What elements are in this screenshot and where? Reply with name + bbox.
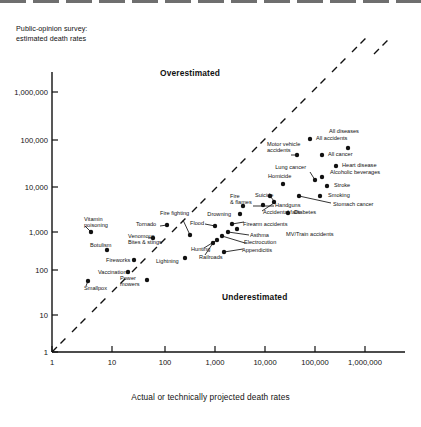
- point-label-stroke: Stroke: [334, 182, 350, 188]
- point-label-all-cancer: All cancer: [328, 151, 353, 157]
- x-tick-label-1000: 1,000: [205, 358, 224, 367]
- x-tick-label-100: 100: [159, 358, 172, 367]
- point-label-heart-disease: Heart disease: [342, 162, 377, 168]
- point-label-all-accidents: All accidents: [316, 135, 347, 141]
- leader-electro: [222, 236, 245, 243]
- leader-lines: [85, 155, 331, 286]
- point-label-railroads: Railroads: [199, 254, 223, 260]
- dash-13: [292, 98, 306, 112]
- dash-15: [332, 58, 346, 72]
- point-label-electrocution: Electrocution: [244, 239, 276, 245]
- point-label-stomach-cancer: Stomach cancer: [333, 201, 373, 207]
- point-label-firearm-accidents: Firearm accidents: [243, 221, 287, 227]
- point-all-diseases: [346, 146, 350, 150]
- leader-appendicitis: [224, 249, 243, 252]
- dash-11: [252, 138, 266, 152]
- point-vitamin-poisoning: [89, 230, 93, 234]
- point-stomach-cancer: [297, 194, 301, 198]
- x-axis-title: Actual or technically projected death ra…: [0, 392, 421, 402]
- y-tick-label-100: 100: [0, 266, 48, 275]
- point-label-tornado: Tornado: [136, 221, 156, 227]
- y-tick-label-10: 10: [0, 311, 48, 320]
- point-label-motor-vehicle: Motor vehicle accidents: [267, 141, 300, 154]
- y-tick-label-1000000: 1,000,000: [0, 88, 48, 97]
- y-tick-label-100000: 100,000: [0, 136, 48, 145]
- point-label-lung-cancer: Lung cancer: [0, 164, 306, 170]
- x-tick-label-10: 10: [108, 358, 116, 367]
- dash-16: [352, 38, 366, 52]
- point-botulism: [105, 248, 109, 252]
- point-label-alcoholic-beverages: Alcoholic beverages: [330, 169, 380, 175]
- leader-asthma: [228, 232, 249, 235]
- overestimated-label: Overestimated: [160, 68, 220, 78]
- y-tick-label-10000: 10,000: [0, 183, 48, 192]
- point-label-venomous-bites: Venomous Bites & stings: [128, 233, 162, 246]
- point-handguns: [261, 203, 265, 207]
- dash-8: [192, 198, 206, 212]
- dash-3: [92, 298, 106, 312]
- point-smoking: [318, 194, 322, 198]
- point-mv-train: [235, 227, 239, 231]
- point-label-hunting: Hunting: [191, 246, 210, 252]
- point-railroads: [211, 241, 215, 245]
- point-lung-cancer: [313, 178, 317, 182]
- dash-2: [72, 318, 86, 332]
- leader-fire-fighting: [183, 220, 190, 235]
- point-firearm-accidents: [230, 222, 234, 226]
- point-fireworks: [132, 258, 136, 262]
- point-label-fireworks: Fireworks: [106, 257, 130, 263]
- point-label-drowning: Drowning: [0, 211, 231, 217]
- point-label-fire-flames: Fire & flames: [230, 193, 252, 206]
- point-label-vitamin-poisoning: Vitamin poisoning: [84, 216, 108, 229]
- point-label-handguns: Handguns: [275, 202, 301, 208]
- point-lightning: [183, 256, 187, 260]
- point-electrocution: [220, 234, 224, 238]
- point-fire-fighting: [188, 233, 192, 237]
- point-hunting: [215, 238, 219, 242]
- point-label-all-diseases: All diseases: [314, 128, 374, 134]
- point-label-mv-train: MV/Train accidents: [286, 231, 334, 237]
- point-asthma: [226, 230, 230, 234]
- point-homicide: [281, 182, 285, 186]
- dash-7: [172, 218, 186, 232]
- point-alcoholic-beverages: [320, 175, 324, 179]
- point-label-fire-fighting: Fire fighting: [160, 210, 189, 216]
- point-heart-disease: [334, 164, 338, 168]
- point-label-smoking: Smoking: [328, 192, 350, 198]
- point-label-flood: Flood: [190, 220, 204, 226]
- y-tick-label-1: 1: [0, 348, 48, 357]
- underestimated-label: Underestimated: [222, 292, 287, 302]
- dash-14: [312, 78, 326, 92]
- point-label-power-mowers: Power mowers: [120, 275, 140, 288]
- point-drowning: [238, 212, 242, 216]
- point-label-lightning: Lightning: [156, 258, 179, 264]
- x-tick-label-10000: 10,000: [253, 358, 276, 367]
- dash-1: [52, 338, 66, 352]
- point-flood: [213, 224, 217, 228]
- leader-stomach-cancer: [299, 196, 331, 203]
- x-tick-label-100000: 100,000: [301, 358, 328, 367]
- dash-17: [374, 40, 388, 54]
- point-label-botulism: Botulism: [90, 242, 111, 248]
- point-tornado: [165, 223, 169, 227]
- point-label-appendicitis: Appendicitis: [242, 247, 272, 253]
- point-label-smallpox: Smallpox: [84, 285, 107, 291]
- point-label-suicide: Suicide: [255, 192, 273, 198]
- point-stroke: [325, 184, 329, 188]
- point-power-mowers: [145, 278, 149, 282]
- point-all-cancer: [320, 153, 324, 157]
- dash-9: [212, 178, 226, 192]
- x-tick-label-1: 1: [50, 358, 54, 367]
- risk-perception-scatter-figure: Public-opinion survey: estimated death r…: [0, 0, 421, 427]
- point-label-homicide: Homicide: [268, 173, 291, 179]
- y-tick-label-1000: 1,000: [0, 228, 48, 237]
- point-label-diabetes: Diabetes: [294, 209, 316, 215]
- point-all-accidents: [308, 137, 312, 141]
- point-label-asthma: Asthma: [250, 232, 269, 238]
- dash-12: [272, 118, 286, 132]
- point-smallpox: [86, 279, 90, 283]
- x-tick-label-1000000: 1,000,000: [348, 358, 382, 367]
